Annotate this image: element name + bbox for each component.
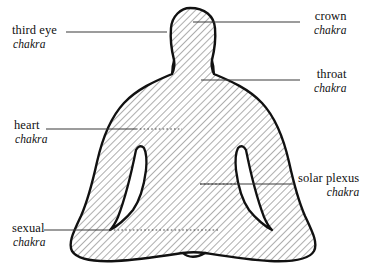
- chakra-diagram-page: crown chakra throat chakra solar plexus …: [0, 0, 381, 272]
- label-crown-name: crown: [304, 10, 347, 24]
- label-sexual-chakra: sexual chakra: [12, 222, 46, 248]
- label-throat-chakra: throat chakra: [304, 68, 347, 94]
- label-sexual-chakra-word: chakra: [12, 236, 46, 248]
- label-heart-name: heart: [14, 119, 48, 133]
- label-crown-chakra: crown chakra: [304, 10, 347, 36]
- label-throat-name: throat: [304, 68, 347, 82]
- figure-body-path: [71, 8, 316, 261]
- meditating-figure-illustration: [0, 0, 381, 272]
- label-heart-chakra: heart chakra: [14, 119, 48, 145]
- label-third-eye-name: third eye: [12, 24, 57, 38]
- label-solar-plexus-name: solar plexus: [298, 172, 359, 186]
- label-solar-plexus-chakra-word: chakra: [298, 186, 359, 198]
- label-heart-chakra-word: chakra: [14, 133, 48, 145]
- label-solar-plexus-chakra: solar plexus chakra: [298, 172, 359, 198]
- label-throat-chakra-word: chakra: [304, 82, 347, 94]
- label-sexual-name: sexual: [12, 222, 46, 236]
- label-third-eye-chakra-word: chakra: [12, 38, 57, 50]
- label-crown-chakra-word: chakra: [304, 24, 347, 36]
- figure-silhouette: [71, 8, 316, 261]
- label-third-eye-chakra: third eye chakra: [12, 24, 57, 50]
